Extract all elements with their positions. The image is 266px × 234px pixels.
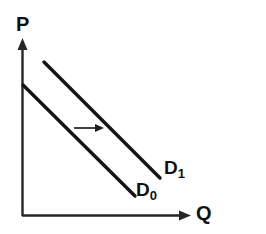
curve-label-d0-subscript: 0 xyxy=(150,188,157,203)
demand-shift-figure: P Q D1 D0 xyxy=(0,0,266,234)
y-axis-label: P xyxy=(16,14,29,34)
y-axis-arrowhead-icon xyxy=(18,38,28,50)
x-axis-label: Q xyxy=(196,203,212,223)
curve-label-d1: D1 xyxy=(164,158,185,177)
shift-arrow-head-icon xyxy=(95,124,104,132)
curve-label-d1-base: D xyxy=(164,157,178,178)
x-axis-arrowhead-icon xyxy=(179,211,191,221)
figure-canvas xyxy=(0,0,266,234)
curve-label-d0: D0 xyxy=(136,180,157,199)
demand-curve-d0 xyxy=(23,85,135,196)
curve-label-d1-subscript: 1 xyxy=(178,166,185,181)
curve-label-d0-base: D xyxy=(136,179,150,200)
demand-curve-d1 xyxy=(44,62,160,178)
